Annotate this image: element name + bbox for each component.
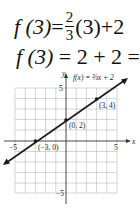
function-call-lhs: f (3) [14, 14, 51, 39]
coordinate-graph: x y −5 5 5 −5 (−3, 0) (0, 2) (3, 4) f(x)… [0, 70, 140, 210]
function-call-lhs: f (3) [16, 44, 53, 69]
equation-line-1: f (3)=23(3)+2 [14, 12, 124, 45]
point-0-2 [64, 118, 68, 122]
y-axis-label: y [61, 70, 66, 78]
equals-sign: = [51, 14, 63, 39]
point-label-0-2: (0, 2) [69, 121, 86, 130]
axes [4, 76, 128, 204]
point-3-4 [95, 97, 99, 101]
tick-label-x-neg: −5 [9, 143, 17, 152]
point-label-3-4: (3, 4) [99, 101, 116, 110]
point-label-neg3-0: (−3, 0) [38, 143, 59, 152]
x-axis-arrow-icon [126, 139, 131, 143]
equation-rest: (3)+2 [75, 14, 124, 39]
fraction-numerator: 2 [65, 10, 75, 27]
point-neg3-0 [34, 139, 38, 143]
fraction-denominator: 3 [65, 27, 75, 43]
equation-line-2: f (3) = 2 + 2 = 4 [16, 46, 140, 68]
fraction-two-thirds: 23 [65, 10, 75, 43]
function-label: f(x) = ⅔x + 2 [73, 73, 114, 82]
tick-label-y-pos: 5 [59, 84, 63, 93]
tick-label-y-neg: −5 [56, 189, 64, 198]
equation-result: = 2 + 2 = 4 [59, 44, 140, 69]
x-axis-label: x [131, 137, 136, 146]
tick-label-x-pos: 5 [114, 143, 118, 152]
